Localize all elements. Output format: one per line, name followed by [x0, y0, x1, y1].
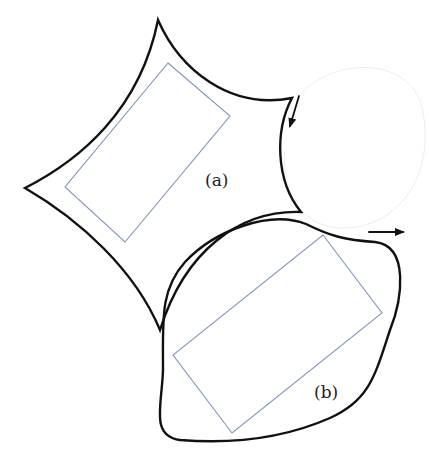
shape-b	[160, 219, 403, 441]
label-b: (b)	[313, 382, 339, 402]
shape-a-rectangle	[65, 63, 230, 242]
shape-b-rectangle	[173, 235, 382, 433]
shape-a-outline	[25, 20, 301, 330]
diagram-canvas: (a) (b)	[0, 0, 429, 464]
diagram-svg	[0, 0, 429, 464]
shape-b-outline	[160, 219, 400, 441]
ghost-circle	[284, 68, 425, 229]
shape-a	[25, 20, 301, 330]
label-a: (a)	[205, 170, 228, 190]
